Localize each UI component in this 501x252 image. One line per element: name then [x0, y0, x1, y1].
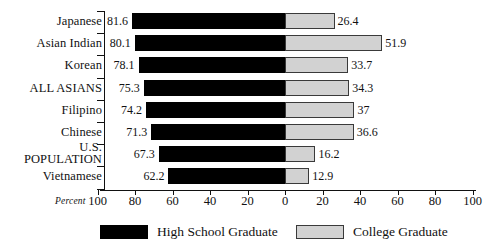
- bar-high-school: [151, 124, 285, 140]
- value-tick-label: 80: [129, 195, 142, 208]
- bar-high-school: [144, 80, 285, 96]
- bar-value-label: 37: [357, 104, 369, 116]
- category-label-line: Filipino: [62, 104, 102, 116]
- bar-value-label: 71.3: [119, 126, 147, 138]
- bar-college: [285, 35, 382, 51]
- bar-value-label: 75.3: [112, 82, 140, 94]
- axis-unit-label: Percent: [55, 196, 86, 206]
- category-label: Chinese: [61, 126, 102, 138]
- value-tick-label: 20: [241, 195, 254, 208]
- category-tick: [97, 122, 105, 123]
- category-label: Japanese: [57, 15, 102, 27]
- value-tick-label: 20: [316, 195, 329, 208]
- bar-college: [285, 168, 309, 184]
- bar-value-label: 74.2: [114, 104, 142, 116]
- legend-swatch-college: [296, 225, 344, 239]
- value-tick-label: 40: [204, 195, 217, 208]
- bar-college: [285, 124, 354, 140]
- value-tick-label: 60: [166, 195, 179, 208]
- category-label-line: ALL ASIANS: [30, 82, 102, 94]
- value-tick-label: 0: [282, 195, 288, 208]
- category-label-line: Vietnamese: [43, 170, 102, 182]
- bar-value-label: 51.9: [385, 37, 406, 49]
- diverging-bar-chart: Percent 10080604020020406080100 Japanese…: [0, 0, 501, 252]
- bar-college: [285, 57, 348, 73]
- bar-college: [285, 13, 335, 29]
- value-axis-line: [100, 190, 476, 191]
- category-tick: [97, 33, 105, 34]
- category-label-line: Chinese: [61, 126, 102, 138]
- value-tick-label: 40: [354, 195, 367, 208]
- category-label: Filipino: [62, 104, 102, 116]
- bar-high-school: [159, 146, 285, 162]
- bar-value-label: 16.2: [318, 148, 339, 160]
- bar-value-label: 81.6: [100, 15, 128, 27]
- category-label: Korean: [65, 59, 102, 71]
- bar-value-label: 36.6: [357, 126, 378, 138]
- bar-value-label: 34.3: [352, 82, 373, 94]
- category-label: Asian Indian: [37, 37, 102, 49]
- category-label-line: Japanese: [57, 15, 102, 27]
- bar-value-label: 62.2: [136, 170, 164, 182]
- category-label: U.S.POPULATION: [24, 142, 102, 165]
- bar-college: [285, 146, 315, 162]
- value-tick-label: 80: [429, 195, 442, 208]
- legend-label-high-school: High School Graduate: [157, 224, 278, 239]
- bar-high-school: [139, 57, 285, 73]
- bar-value-label: 80.1: [103, 37, 131, 49]
- chart-legend: High School Graduate College Graduate: [0, 222, 501, 244]
- bar-college: [285, 80, 349, 96]
- bar-value-label: 67.3: [127, 148, 155, 160]
- category-label-line: POPULATION: [24, 154, 102, 166]
- category-label-line: Asian Indian: [37, 37, 102, 49]
- category-tick: [97, 11, 105, 12]
- bar-college: [285, 102, 354, 118]
- legend-label-college: College Graduate: [353, 224, 448, 239]
- category-label-line: Korean: [65, 59, 102, 71]
- bar-high-school: [146, 102, 285, 118]
- value-tick-label: 60: [391, 195, 404, 208]
- category-tick: [97, 100, 105, 101]
- category-label: ALL ASIANS: [30, 82, 102, 94]
- value-tick-label: 100: [88, 195, 107, 208]
- category-label: Vietnamese: [43, 170, 102, 182]
- category-tick: [97, 55, 105, 56]
- legend-swatch-high-school: [100, 225, 148, 239]
- category-tick: [97, 78, 105, 79]
- bar-value-label: 78.1: [107, 59, 135, 71]
- bar-value-label: 33.7: [351, 59, 372, 71]
- bar-high-school: [135, 35, 285, 51]
- bar-high-school: [168, 168, 285, 184]
- bar-value-label: 26.4: [338, 15, 359, 27]
- bar-value-label: 12.9: [312, 170, 333, 182]
- value-tick-label: 100: [463, 195, 482, 208]
- category-tick: [97, 166, 105, 167]
- bar-high-school: [132, 13, 285, 29]
